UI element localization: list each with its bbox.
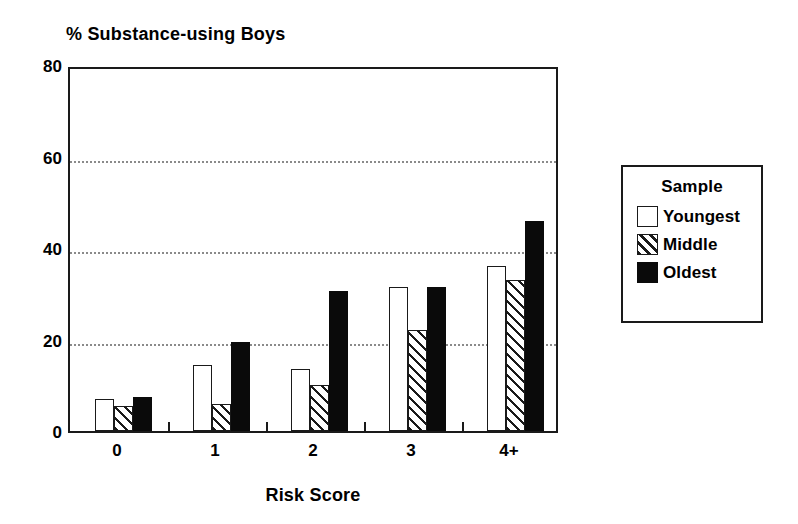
y-tick-label-0: 0 <box>53 423 62 443</box>
y-tick-label-60: 60 <box>43 149 62 169</box>
x-tick-2 <box>364 422 366 431</box>
bar-2-oldest <box>329 291 348 431</box>
y-tick-label-80: 80 <box>43 57 62 77</box>
bar-3-oldest <box>427 287 446 431</box>
chart-title: % Substance-using Boys <box>66 24 285 45</box>
bar-1-youngest <box>193 365 212 431</box>
legend-entries: YoungestMiddleOldest <box>623 206 761 283</box>
white-square-icon <box>637 206 658 227</box>
bar-0-youngest <box>95 399 114 431</box>
legend-label-oldest: Oldest <box>663 263 717 283</box>
legend-title: Sample <box>623 177 761 197</box>
bar-2-middle <box>310 385 329 431</box>
plot-area <box>68 67 558 433</box>
x-axis-title: Risk Score <box>68 485 558 506</box>
legend-label-youngest: Youngest <box>663 207 740 227</box>
x-tick-0 <box>168 422 170 431</box>
legend-entry-youngest: Youngest <box>637 206 761 227</box>
legend: Sample YoungestMiddleOldest <box>621 165 763 323</box>
x-tick-label-0: 0 <box>112 441 121 461</box>
black-square-icon <box>637 262 658 283</box>
x-tick-label-3: 3 <box>406 441 415 461</box>
bar-chart-figure: % Substance-using Boys 020406080 01234+ … <box>0 0 798 524</box>
bar-4plus-middle <box>506 280 525 431</box>
hatched-square-icon <box>637 234 658 255</box>
bar-2-youngest <box>291 369 310 431</box>
bar-4plus-youngest <box>487 266 506 431</box>
bars-layer <box>70 69 556 431</box>
bar-4plus-oldest <box>525 221 544 431</box>
y-tick-label-20: 20 <box>43 332 62 352</box>
x-tick-1 <box>266 422 268 431</box>
bar-1-middle <box>212 404 231 431</box>
bar-3-youngest <box>389 287 408 431</box>
x-tick-3 <box>462 422 464 431</box>
bar-0-middle <box>114 406 133 431</box>
bar-0-oldest <box>133 397 152 431</box>
bar-1-oldest <box>231 342 250 431</box>
bar-3-middle <box>408 330 427 431</box>
y-axis-tick-labels: 020406080 <box>22 67 62 433</box>
y-tick-label-40: 40 <box>43 240 62 260</box>
legend-label-middle: Middle <box>663 235 717 255</box>
legend-entry-oldest: Oldest <box>637 262 761 283</box>
x-tick-label-2: 2 <box>308 441 317 461</box>
legend-entry-middle: Middle <box>637 234 761 255</box>
x-tick-label-1: 1 <box>210 441 219 461</box>
x-tick-label-4plus: 4+ <box>499 441 518 461</box>
